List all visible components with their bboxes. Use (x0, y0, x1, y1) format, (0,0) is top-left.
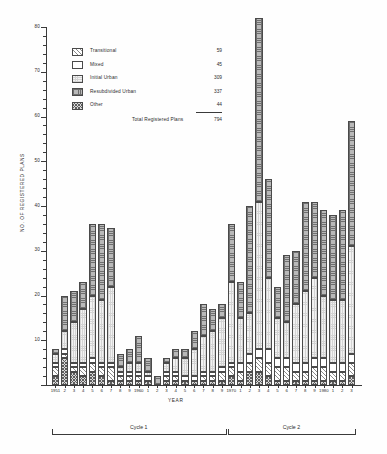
bar-column (135, 336, 142, 385)
legend-total-row: Total Registered Plans 794 (72, 115, 237, 127)
bar-column (255, 18, 262, 385)
x-axis-tick-label: 3 (73, 389, 75, 393)
bar-segment (200, 304, 207, 335)
bar-segment (61, 354, 68, 358)
bar-column (237, 282, 244, 385)
bar-segment (79, 282, 86, 309)
bar-segment (52, 363, 59, 367)
bar-segment (107, 363, 114, 367)
bar-column (329, 215, 336, 385)
bar-segment (126, 363, 133, 372)
bar-segment (117, 367, 124, 371)
bar-segment (181, 376, 188, 380)
bar-segment (329, 372, 336, 381)
y-axis-tick-label: 60 (18, 114, 40, 119)
legend-swatch (72, 88, 83, 96)
bar-segment (311, 202, 318, 278)
bar-segment (292, 251, 299, 305)
cycle-bracket-line (228, 434, 356, 435)
legend-total-label: Total Registered Plans (132, 117, 183, 122)
bar-column (246, 206, 253, 385)
bar-segment (98, 363, 105, 367)
bar-segment (348, 246, 355, 353)
bar-segment (302, 372, 309, 381)
bar-segment (209, 372, 216, 376)
bar-segment (107, 228, 114, 286)
legend-item: Transitional59 (72, 46, 237, 60)
bar-segment (163, 376, 170, 380)
bar-column (126, 349, 133, 385)
bar-segment (348, 121, 355, 246)
x-axis-tick-label: 6 (286, 389, 288, 393)
bar-segment (61, 296, 68, 332)
bar-segment (283, 322, 290, 358)
bar-column (320, 210, 327, 385)
bar-segment (255, 358, 262, 371)
bar-segment (237, 363, 244, 372)
bar-segment (52, 367, 59, 376)
cycle-bracket-cap (226, 429, 227, 435)
bar-segment (70, 322, 77, 362)
bar-segment (237, 372, 244, 381)
x-axis-tick-label: 1 (239, 389, 241, 393)
cycle-bracket-cap (355, 429, 356, 435)
bar-segment (117, 372, 124, 376)
bar-segment (79, 376, 86, 385)
x-axis-tick-label: 1960 (134, 389, 144, 393)
bar-segment (144, 376, 151, 380)
x-axis-tick-label: 3 (258, 389, 260, 393)
bar-segment (320, 358, 327, 367)
bar-segment (70, 363, 77, 367)
legend-swatch (72, 102, 83, 110)
cycle-bracket-cap (52, 429, 53, 435)
x-axis-tick-label: 9 (221, 389, 223, 393)
bar-column (70, 291, 77, 385)
bar-segment (89, 363, 96, 372)
x-axis-tick-labels: 1951234567891960123456789197012345678919… (0, 389, 387, 399)
bar-segment (209, 309, 216, 331)
bar-segment (348, 354, 355, 363)
legend-total-value: 794 (200, 117, 222, 122)
bar-column (292, 251, 299, 385)
bar-segment (329, 215, 336, 300)
bar-segment (98, 376, 105, 385)
bar-segment (320, 210, 327, 295)
bar-column (311, 202, 318, 385)
legend-item-value: 59 (200, 48, 222, 53)
bar-segment (255, 349, 262, 358)
x-axis-tick-label: 9 (128, 389, 130, 393)
legend-item-value: 45 (200, 62, 222, 67)
bar-segment (163, 358, 170, 362)
bar-segment (274, 367, 281, 380)
x-axis-tick-label: 8 (304, 389, 306, 393)
legend-swatch (72, 48, 83, 56)
x-axis-tick-label: 8 (119, 389, 121, 393)
bar-column (163, 358, 170, 385)
bar-segment (302, 202, 309, 292)
x-axis-tick-label: 1970 (226, 389, 236, 393)
bar-segment (274, 318, 281, 358)
bar-segment (228, 363, 235, 367)
chart-figure: 1020304050607080 NO. OF REGISTERED PLANS… (0, 0, 387, 454)
bar-column (52, 349, 59, 385)
bar-segment (117, 354, 124, 367)
cycle-brackets: Cycle 1Cycle 2 (0, 424, 387, 446)
bar-segment (70, 291, 77, 322)
bar-column (348, 121, 355, 385)
bar-segment (292, 372, 299, 381)
x-axis-tick-label: 1 (147, 389, 149, 393)
bar-segment (135, 372, 142, 376)
bar-segment (237, 318, 244, 363)
legend-item-label: Other (90, 102, 103, 107)
bar-column (89, 224, 96, 385)
bar-segment (246, 354, 253, 363)
bar-segment (89, 296, 96, 359)
x-axis-tick-label: 8 (212, 389, 214, 393)
bar-segment (98, 367, 105, 376)
bar-segment (181, 358, 188, 376)
bar-segment (200, 372, 207, 376)
x-axis-tick-label: 2 (63, 389, 65, 393)
bar-segment (163, 372, 170, 376)
y-axis-title: NO. OF REGISTERED PLANS (20, 123, 25, 263)
bar-segment (209, 376, 216, 380)
